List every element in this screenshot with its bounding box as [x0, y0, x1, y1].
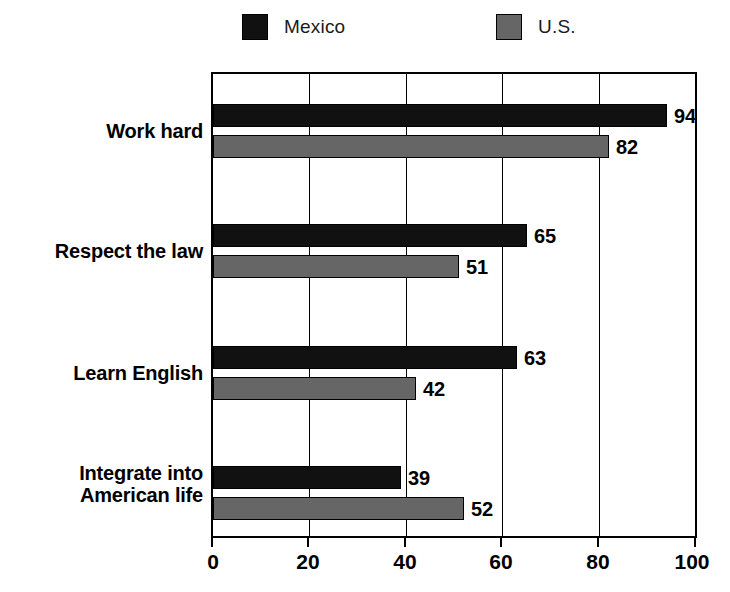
tick-mark-60	[500, 538, 502, 547]
tick-label-20: 20	[296, 550, 319, 574]
category-label-line: Respect the law	[0, 240, 203, 262]
chart-legend: Mexico U.S.	[0, 0, 730, 60]
tick-mark-0	[211, 538, 213, 547]
x-axis: 0 20 40 60 80 100	[211, 538, 697, 592]
bar-row-work-hard-us: 82	[213, 135, 638, 158]
category-label-line: American life	[0, 484, 203, 506]
bar-learn-english-mexico	[213, 346, 517, 369]
tick-label-100: 100	[674, 550, 709, 574]
tick-label-60: 60	[489, 550, 512, 574]
legend-label-us: U.S.	[538, 16, 576, 38]
bar-row-work-hard-mexico: 94	[213, 104, 696, 127]
category-label-line: Learn English	[0, 362, 203, 384]
chart-plot-area: 94 82 65 51 63	[211, 72, 697, 538]
legend-label-mexico: Mexico	[284, 16, 345, 38]
bar-row-respect-the-law-mexico: 65	[213, 224, 556, 247]
category-label-respect-the-law: Respect the law	[0, 240, 203, 262]
bar-value-work-hard-us: 82	[616, 137, 638, 157]
tick-mark-80	[597, 538, 599, 547]
bar-work-hard-mexico	[213, 104, 667, 127]
bar-value-integrate-mexico: 39	[408, 468, 430, 488]
tick-label-80: 80	[586, 550, 609, 574]
bar-value-respect-the-law-mexico: 65	[534, 226, 556, 246]
bar-value-learn-english-us: 42	[423, 379, 445, 399]
bar-value-respect-the-law-us: 51	[466, 257, 488, 277]
bar-learn-english-us	[213, 377, 416, 400]
legend-item-mexico: Mexico	[242, 14, 345, 40]
legend-swatch-mexico-icon	[242, 14, 268, 40]
tick-label-40: 40	[393, 550, 416, 574]
tick-mark-40	[404, 538, 406, 547]
bar-work-hard-us	[213, 135, 609, 158]
legend-swatch-us-icon	[496, 14, 522, 40]
bar-row-integrate-us: 52	[213, 497, 493, 520]
bar-integrate-mexico	[213, 466, 401, 489]
category-label-line: Work hard	[0, 120, 203, 142]
bar-value-learn-english-mexico: 63	[524, 348, 546, 368]
chart-bars: 94 82 65 51 63	[213, 74, 695, 536]
tick-mark-100	[694, 538, 696, 547]
legend-item-us: U.S.	[496, 14, 576, 40]
category-label-learn-english: Learn English	[0, 362, 203, 384]
bar-row-learn-english-mexico: 63	[213, 346, 546, 369]
bar-row-integrate-mexico: 39	[213, 466, 430, 489]
category-label-work-hard: Work hard	[0, 120, 203, 142]
bar-row-respect-the-law-us: 51	[213, 255, 488, 278]
tick-mark-20	[307, 538, 309, 547]
category-label-integrate-into-american-life: Integrate into American life	[0, 462, 203, 507]
tick-label-0: 0	[207, 550, 219, 574]
bar-row-learn-english-us: 42	[213, 377, 445, 400]
category-axis-labels: Work hard Respect the law Learn English …	[0, 72, 203, 538]
bar-value-work-hard-mexico: 94	[674, 106, 696, 126]
bar-integrate-us	[213, 497, 464, 520]
category-label-line: Integrate into	[0, 462, 203, 484]
bar-value-integrate-us: 52	[471, 499, 493, 519]
bar-respect-the-law-us	[213, 255, 459, 278]
bar-respect-the-law-mexico	[213, 224, 527, 247]
